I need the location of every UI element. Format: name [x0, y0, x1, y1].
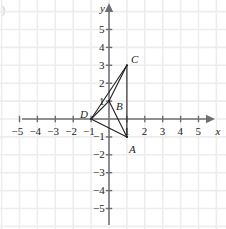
- y-tick-label-2: 2: [99, 78, 105, 89]
- grid-lines: [0, 0, 226, 229]
- y-tick-label--4: −4: [93, 185, 105, 196]
- x-tick-label--3: −3: [47, 126, 59, 137]
- y-tick-label-3: 3: [99, 60, 105, 71]
- y-tick-label--3: −3: [93, 167, 105, 178]
- y-tick-label-5: 5: [99, 24, 105, 35]
- point-label-D: D: [80, 109, 88, 120]
- axes: [22, 3, 215, 225]
- x-tick-label-1: 1: [124, 126, 130, 137]
- x-tick-label-4: 4: [178, 126, 184, 137]
- y-axis-label: y: [100, 3, 105, 14]
- x-tick-label-5: 5: [196, 126, 202, 137]
- point-label-A: A: [129, 144, 136, 155]
- coordinate-plane-figure: ) −5−4−3−2−11234554321−1−2−3−4−5xyABCD: [0, 0, 226, 229]
- y-tick-label-4: 4: [99, 42, 105, 53]
- x-tick-label-3: 3: [160, 126, 166, 137]
- y-tick-label-1: 1: [99, 96, 105, 107]
- y-tick-label--2: −2: [93, 149, 105, 160]
- x-tick-label-2: 2: [142, 126, 148, 137]
- point-label-B: B: [116, 101, 123, 112]
- coordinate-plot-svg: [0, 0, 226, 229]
- y-tick-label--5: −5: [93, 203, 105, 214]
- x-tick-label--2: −2: [65, 126, 77, 137]
- point-label-C: C: [131, 54, 138, 65]
- y-tick-label--1: −1: [93, 131, 105, 142]
- x-tick-label--5: −5: [12, 126, 24, 137]
- x-axis-label: x: [216, 126, 221, 137]
- x-tick-label--4: −4: [29, 126, 41, 137]
